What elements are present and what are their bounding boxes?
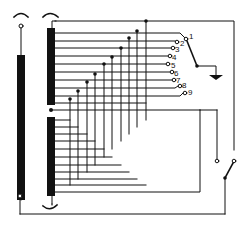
label-7: 7 — [176, 76, 181, 85]
schematic-svg: 1 2 3 4 5 6 7 8 9 — [0, 0, 250, 225]
contact-9 — [183, 91, 187, 95]
power-switch — [200, 110, 236, 214]
label-8: 8 — [182, 81, 187, 90]
label-9: 9 — [188, 88, 193, 97]
upper-coil-bar — [47, 28, 55, 105]
winding-dot-arc-icon — [43, 14, 58, 18]
lower-coil-bar — [47, 117, 55, 196]
contact-2 — [175, 40, 179, 44]
top-feed-wire — [55, 21, 234, 150]
schematic-diagram: 1 2 3 4 5 6 7 8 9 — [0, 0, 250, 225]
left-winding — [14, 14, 225, 215]
contact-5 — [166, 62, 170, 66]
winding-dot-arc-icon — [14, 14, 28, 18]
label-2: 2 — [180, 39, 185, 48]
terminal-bottom-left — [18, 194, 22, 198]
terminal-top-left — [19, 24, 23, 28]
winding-dot-arc-icon-bottom — [43, 205, 57, 209]
label-1: 1 — [189, 32, 194, 41]
switch-terminal-left — [215, 159, 219, 163]
rotary-arm — [187, 41, 197, 66]
switch-blade — [225, 163, 233, 178]
rotary-labels: 1 2 3 4 5 6 7 8 9 — [171, 32, 194, 97]
ground-icon — [209, 75, 223, 80]
lower-taps — [52, 110, 200, 205]
